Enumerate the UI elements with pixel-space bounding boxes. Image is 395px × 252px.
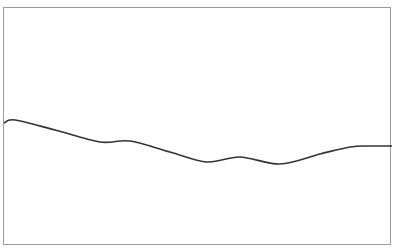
line-chart	[0, 0, 395, 252]
data-line	[4, 120, 392, 164]
